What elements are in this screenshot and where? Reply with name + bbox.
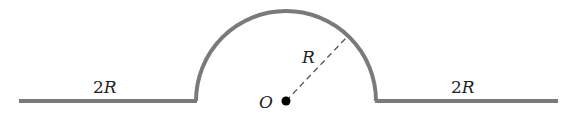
wire-diagram: 2R 2R R O [0,0,563,132]
semicircle-arc [196,11,376,101]
radius-label: R [301,47,315,67]
center-label: O [259,92,273,112]
radius-dashed-line [286,38,346,101]
center-point [282,97,291,106]
left-length-label: 2R [93,77,117,97]
right-length-label: 2R [451,77,475,97]
